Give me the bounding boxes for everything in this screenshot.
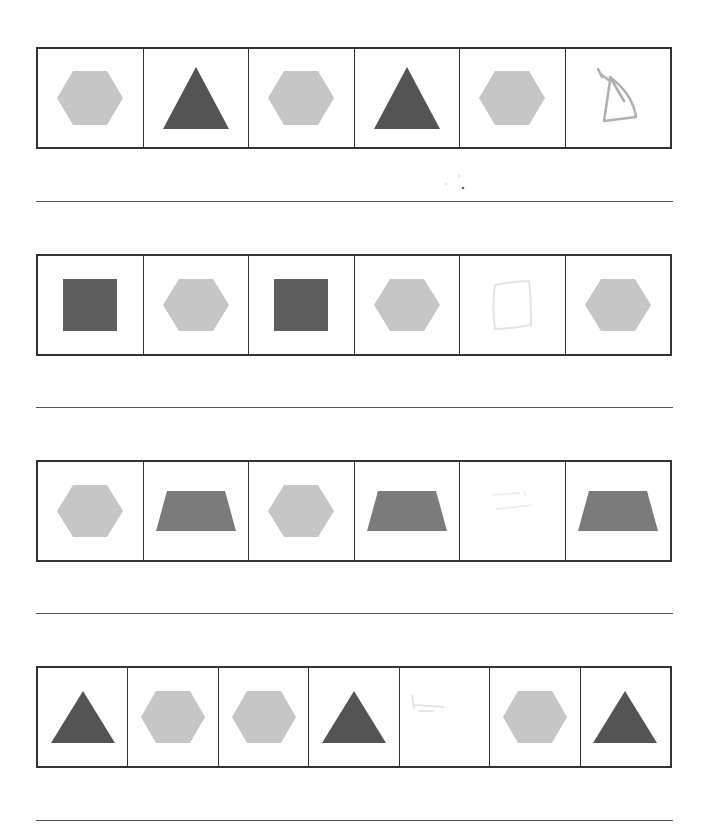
hexagon-shape <box>479 71 545 125</box>
hexagon-shape <box>141 691 205 743</box>
faint-erased-marks <box>472 481 552 541</box>
answer-line-2[interactable] <box>36 407 673 408</box>
answer-cell-drawn[interactable] <box>566 49 671 147</box>
trapezoid-shape <box>367 491 447 531</box>
pattern-cell <box>460 49 566 147</box>
pattern-row-2 <box>36 254 672 356</box>
pencil-triangle-drawing <box>588 63 648 133</box>
hexagon-shape <box>163 279 229 331</box>
pattern-cell <box>144 462 250 560</box>
trapezoid-shape <box>156 491 236 531</box>
pattern-cell <box>249 49 355 147</box>
pattern-cell <box>249 256 355 354</box>
answer-line-4[interactable] <box>36 820 673 821</box>
pencil-square-drawing-faint <box>487 277 537 333</box>
pattern-cell <box>249 462 355 560</box>
hexagon-shape <box>585 279 651 331</box>
pattern-cell <box>128 668 218 766</box>
pattern-cell <box>38 256 144 354</box>
pattern-cell <box>38 462 144 560</box>
pattern-row-3 <box>36 460 672 562</box>
hexagon-shape <box>374 279 440 331</box>
triangle-shape <box>322 691 386 743</box>
hexagon-shape <box>57 485 123 537</box>
pattern-cell <box>38 49 144 147</box>
square-shape <box>274 279 328 331</box>
answer-line-3[interactable] <box>36 613 673 614</box>
trapezoid-shape <box>578 491 658 531</box>
triangle-shape <box>593 691 657 743</box>
pattern-cell <box>38 668 128 766</box>
hexagon-shape <box>232 691 296 743</box>
pattern-cell <box>355 49 461 147</box>
pattern-cell <box>144 256 250 354</box>
hexagon-shape <box>268 71 334 125</box>
hexagon-shape <box>268 485 334 537</box>
pattern-cell <box>355 256 461 354</box>
pattern-cell <box>219 668 309 766</box>
pattern-cell <box>309 668 399 766</box>
pattern-row-4 <box>36 666 672 768</box>
pattern-row-1 <box>36 47 672 149</box>
faint-erased-marks <box>404 687 484 747</box>
pattern-cell <box>566 462 671 560</box>
hexagon-shape <box>503 691 567 743</box>
triangle-shape <box>163 67 229 129</box>
pattern-cell <box>490 668 580 766</box>
pattern-cell <box>581 668 670 766</box>
triangle-shape <box>374 67 440 129</box>
answer-cell-blank[interactable] <box>400 668 490 766</box>
answer-cell-blank[interactable] <box>460 462 566 560</box>
triangle-shape <box>51 691 115 743</box>
hexagon-shape <box>57 71 123 125</box>
pattern-cell <box>566 256 671 354</box>
answer-line-1[interactable] <box>36 201 673 202</box>
pattern-cell <box>355 462 461 560</box>
square-shape <box>63 279 117 331</box>
answer-cell-drawn[interactable] <box>460 256 566 354</box>
pattern-cell <box>144 49 250 147</box>
